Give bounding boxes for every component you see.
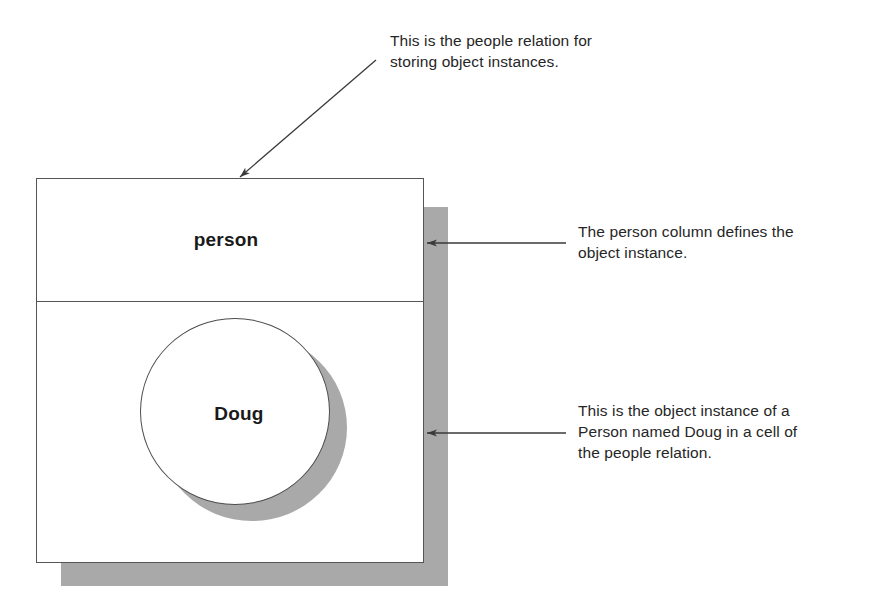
annotation-column-note: The person column defines the object ins… [578,221,848,263]
table-header-row: person [37,179,423,302]
diagram-canvas: person Doug This is the people relation … [0,0,877,616]
object-instance-circle: Doug [140,318,330,505]
table-shadow-bottom [61,563,448,586]
table-header-label: person [194,229,259,251]
annotation-instance-note: This is the object instance of a Person … [578,400,858,463]
table-shadow-right [424,207,448,586]
annotation-relation-note: This is the people relation for storing … [390,30,660,72]
object-instance-label: Doug [214,403,263,425]
arrow-to-relation [240,60,376,177]
